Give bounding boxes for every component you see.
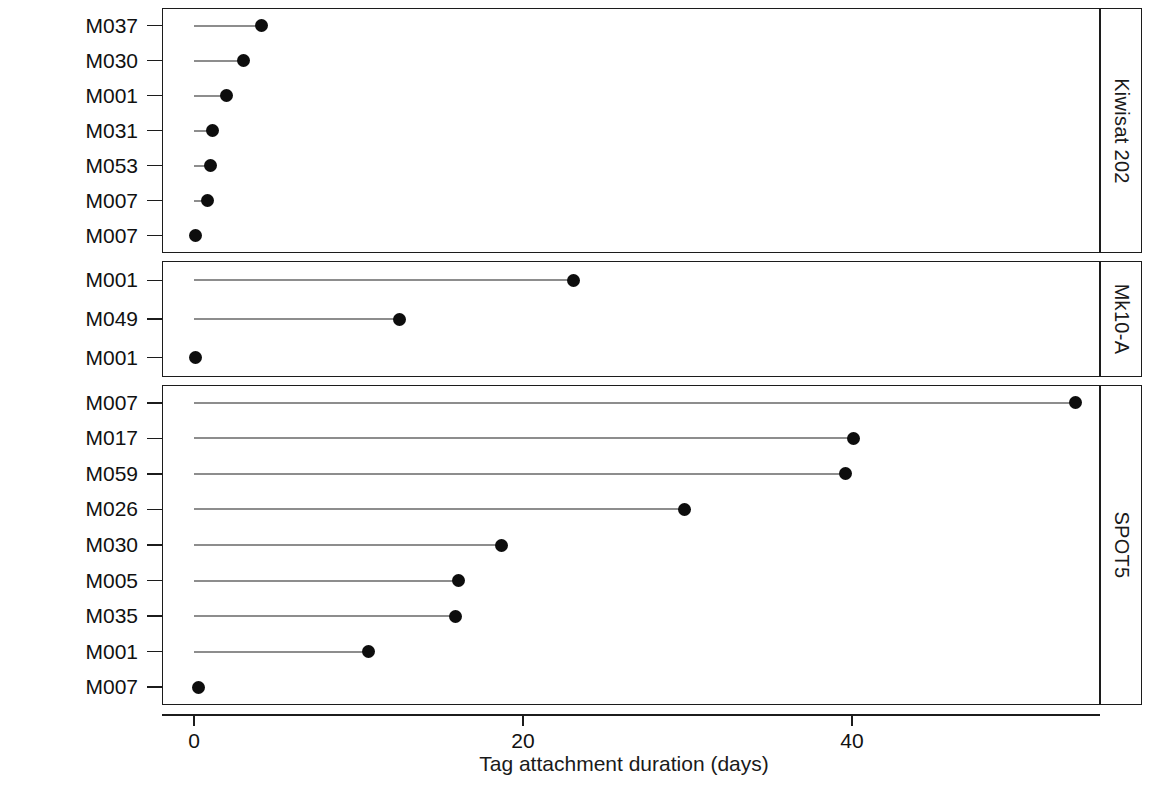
data-point	[362, 645, 375, 658]
y-tick-label: M017	[18, 427, 138, 448]
duration-stem	[194, 60, 238, 62]
y-tick-label: M030	[18, 534, 138, 555]
x-tick-mark	[522, 714, 524, 726]
y-tick-mark	[147, 318, 162, 320]
y-tick-label: M001	[18, 641, 138, 662]
duration-stem	[194, 473, 840, 475]
duration-stem	[194, 651, 363, 653]
x-axis-title: Tag attachment duration (days)	[194, 752, 1054, 776]
y-tick-label: M001	[18, 269, 138, 290]
y-tick-mark	[147, 686, 162, 688]
y-tick-mark	[147, 200, 162, 202]
facet-strip-label: Kiwisat 202	[1110, 78, 1133, 184]
y-tick-mark	[147, 509, 162, 511]
x-tick-label: 20	[483, 729, 563, 753]
duration-stem	[194, 25, 256, 27]
y-tick-label: M049	[18, 308, 138, 329]
y-tick-mark	[147, 544, 162, 546]
facet-strip-label: Mk10-A	[1110, 284, 1133, 355]
data-point	[206, 124, 219, 137]
duration-stem	[194, 580, 454, 582]
x-tick-mark	[851, 714, 853, 726]
duration-stem	[194, 402, 1071, 404]
y-tick-label: M007	[18, 392, 138, 413]
duration-stem	[194, 437, 849, 439]
x-axis-line	[162, 714, 1100, 716]
data-point	[393, 313, 406, 326]
y-tick-mark	[147, 402, 162, 404]
facet-strip-mk10-a: Mk10-A	[1100, 261, 1142, 377]
y-tick-mark	[147, 473, 162, 475]
y-tick-label: M007	[18, 190, 138, 211]
y-tick-label: M001	[18, 85, 138, 106]
facet-strip-spot5: SPOT5	[1100, 385, 1142, 705]
data-point	[495, 539, 508, 552]
data-point	[678, 503, 691, 516]
data-point	[449, 610, 462, 623]
y-tick-label: M007	[18, 225, 138, 246]
data-point	[237, 54, 250, 67]
duration-stem	[194, 615, 451, 617]
tag-duration-dot-plot: Individual Kiwisat 202M037M030M001M031M0…	[0, 0, 1159, 788]
y-tick-mark	[147, 651, 162, 653]
y-tick-label: M007	[18, 676, 138, 697]
x-tick-label: 40	[812, 729, 892, 753]
y-tick-label: M037	[18, 15, 138, 36]
facet-panel-kiwisat-202	[162, 8, 1100, 253]
data-point	[204, 159, 217, 172]
duration-stem	[194, 508, 679, 510]
y-tick-label: M035	[18, 605, 138, 626]
y-tick-mark	[147, 235, 162, 237]
data-point	[847, 432, 860, 445]
y-tick-mark	[147, 615, 162, 617]
facet-strip-label: SPOT5	[1110, 511, 1133, 578]
duration-stem	[194, 279, 569, 281]
y-tick-mark	[147, 357, 162, 359]
y-tick-label: M031	[18, 120, 138, 141]
y-tick-label: M001	[18, 347, 138, 368]
y-tick-mark	[147, 438, 162, 440]
facet-strip-kiwisat-202: Kiwisat 202	[1100, 8, 1142, 253]
y-tick-label: M030	[18, 50, 138, 71]
x-tick-mark	[193, 714, 195, 726]
y-tick-mark	[147, 580, 162, 582]
y-tick-mark	[147, 165, 162, 167]
y-tick-mark	[147, 280, 162, 282]
y-tick-mark	[147, 130, 162, 132]
data-point	[255, 19, 268, 32]
x-tick-label: 0	[154, 729, 234, 753]
y-tick-label: M026	[18, 498, 138, 519]
y-tick-mark	[147, 95, 162, 97]
duration-stem	[194, 318, 395, 320]
duration-stem	[194, 544, 497, 546]
data-point	[201, 194, 214, 207]
y-tick-label: M059	[18, 463, 138, 484]
y-tick-mark	[147, 25, 162, 27]
y-tick-mark	[147, 60, 162, 62]
y-tick-label: M053	[18, 155, 138, 176]
duration-stem	[194, 95, 222, 97]
y-tick-label: M005	[18, 570, 138, 591]
